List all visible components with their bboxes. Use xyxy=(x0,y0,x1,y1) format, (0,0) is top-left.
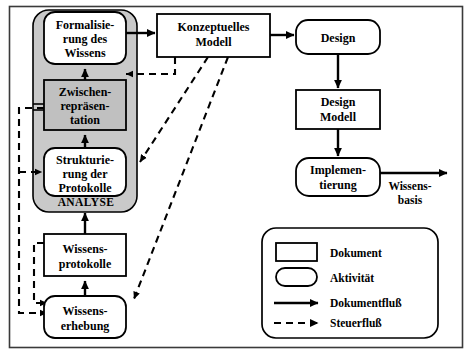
legend-label-dokument: Dokument xyxy=(330,247,382,259)
node-wissensprotokolle[interactable]: Wissens- protokolle xyxy=(44,234,126,276)
node-implementierung[interactable]: Implemen- tierung xyxy=(296,158,380,196)
node-zwischenrepraesentation-line-2: repräsen- xyxy=(60,99,109,113)
node-strukturierung-line-2: rung der xyxy=(63,167,109,181)
node-formalisierung-line-2: rung des xyxy=(63,32,108,46)
edge-label-wissensbasis-line-2: basis xyxy=(398,194,423,206)
node-formalisierung-line-3: Wissens xyxy=(64,46,105,60)
legend-symbol-aktivitaet-icon xyxy=(276,268,317,286)
legend: Dokument Aktivität Dokumentfluß Steuerfl… xyxy=(262,228,438,338)
node-strukturierung-line-3: Protokolle xyxy=(58,181,112,195)
node-zwischenrepraesentation-line-3: tation xyxy=(70,113,100,127)
node-design-line-1: Design xyxy=(321,31,356,45)
legend-label-steuerfluss: Steuerfluß xyxy=(330,317,382,329)
node-zwischenrepraesentation-line-1: Zwischen- xyxy=(59,85,112,99)
legend-label-aktivitaet: Aktivität xyxy=(330,272,374,284)
legend-label-dokumentfluss: Dokumentfluß xyxy=(330,297,402,309)
node-formalisierung-line-1: Formalisie- xyxy=(56,18,115,32)
node-implementierung-line-2: tierung xyxy=(319,178,356,192)
node-formalisierung[interactable]: Formalisie- rung des Wissens xyxy=(44,12,126,64)
node-strukturierung-line-1: Strukturie- xyxy=(56,153,114,167)
node-implementierung-line-1: Implemen- xyxy=(310,163,366,177)
legend-symbol-dokument-icon xyxy=(276,243,317,261)
node-wissenserhebung-line-1: Wissens- xyxy=(62,304,107,318)
node-wissensprotokolle-line-1: Wissens- xyxy=(62,242,107,256)
node-konzeptuelles-modell-line-1: Konzeptuelles xyxy=(178,20,250,34)
node-konzeptuelles-modell-line-2: Modell xyxy=(196,35,233,49)
node-design-modell-line-2: Modell xyxy=(320,110,357,124)
edge-label-wissensbasis-line-1: Wissens- xyxy=(388,180,431,192)
node-design-modell-line-1: Design xyxy=(321,95,356,109)
diagram-page: ANALYSE xyxy=(0,0,472,361)
node-wissensprotokolle-line-2: protokolle xyxy=(59,257,112,271)
process-diagram: ANALYSE xyxy=(0,0,472,361)
node-strukturierung[interactable]: Strukturie- rung der Protokolle xyxy=(44,148,126,196)
analyse-group-label: ANALYSE xyxy=(58,196,115,208)
node-wissenserhebung[interactable]: Wissens- erhebung xyxy=(44,296,126,338)
node-design-modell[interactable]: Design Modell xyxy=(296,90,380,129)
node-zwischenrepraesentation[interactable]: Zwischen- repräsen- tation xyxy=(44,80,126,130)
node-wissenserhebung-line-2: erhebung xyxy=(61,319,110,333)
node-konzeptuelles-modell[interactable]: Konzeptuelles Modell xyxy=(157,14,270,57)
node-design[interactable]: Design xyxy=(296,20,380,54)
